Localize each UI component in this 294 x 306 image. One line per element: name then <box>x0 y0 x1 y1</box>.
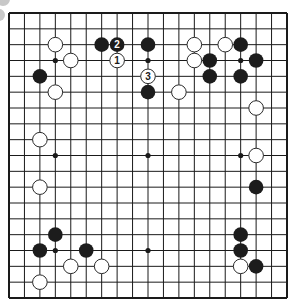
star-point <box>145 153 150 158</box>
black-stone <box>94 37 109 52</box>
star-point <box>53 58 58 63</box>
black-stone-body <box>33 69 48 84</box>
black-stone <box>202 53 217 68</box>
black-stone <box>33 243 48 258</box>
black-stone-body <box>94 37 109 52</box>
black-stone <box>249 180 264 195</box>
black-stone <box>202 69 217 84</box>
black-stone-body <box>233 69 248 84</box>
black-stone <box>79 243 94 258</box>
black-stone <box>33 69 48 84</box>
black-stone <box>233 243 248 258</box>
white-stone <box>63 259 78 274</box>
black-stone-body <box>233 243 248 258</box>
white-stone-body <box>33 275 48 290</box>
white-stone <box>94 259 109 274</box>
black-stone <box>249 259 264 274</box>
white-stone <box>33 180 48 195</box>
white-stone-body <box>33 132 48 147</box>
star-point <box>145 248 150 253</box>
black-stone-body <box>141 37 156 52</box>
black-stone: 2 <box>110 37 125 52</box>
black-stone-body <box>202 53 217 68</box>
white-stone-body <box>33 180 48 195</box>
white-stone-body <box>63 53 78 68</box>
go-board[interactable]: 213 <box>0 0 294 306</box>
white-stone-body <box>249 101 264 116</box>
white-stone <box>33 132 48 147</box>
black-stone-body <box>141 85 156 100</box>
move-number-label: 1 <box>114 55 120 66</box>
star-point <box>53 153 58 158</box>
white-stone <box>48 85 63 100</box>
white-stone <box>249 148 264 163</box>
black-stone <box>48 227 63 242</box>
white-stone <box>33 275 48 290</box>
white-stone-body <box>48 37 63 52</box>
white-stone <box>218 37 233 52</box>
black-stone-body <box>249 180 264 195</box>
black-stone <box>249 53 264 68</box>
white-stone: 1 <box>110 53 125 68</box>
black-stone-body <box>233 37 248 52</box>
white-stone-body <box>187 37 202 52</box>
black-stone-body <box>79 243 94 258</box>
black-stone <box>233 227 248 242</box>
star-point <box>145 58 150 63</box>
white-stone-body <box>172 85 187 100</box>
white-stone <box>63 53 78 68</box>
black-stone-body <box>48 227 63 242</box>
white-stone-body <box>218 37 233 52</box>
black-stone-body <box>249 53 264 68</box>
star-point <box>238 58 243 63</box>
black-stone-body <box>249 259 264 274</box>
star-point <box>53 248 58 253</box>
white-stone-body <box>94 259 109 274</box>
black-stone <box>141 85 156 100</box>
black-stone <box>233 37 248 52</box>
move-number-label: 3 <box>145 71 151 82</box>
white-stone-body <box>48 85 63 100</box>
star-point <box>238 153 243 158</box>
white-stone-body <box>233 259 248 274</box>
black-stone-body <box>202 69 217 84</box>
white-stone <box>233 259 248 274</box>
white-stone <box>187 53 202 68</box>
black-stone <box>233 69 248 84</box>
white-stone-body <box>63 259 78 274</box>
white-stone <box>48 37 63 52</box>
black-stone-body <box>33 243 48 258</box>
black-stone-body <box>233 227 248 242</box>
white-stone-body <box>187 53 202 68</box>
move-number-label: 2 <box>114 39 120 50</box>
white-stone-body <box>249 148 264 163</box>
white-stone: 3 <box>141 69 156 84</box>
black-stone <box>141 37 156 52</box>
white-stone <box>187 37 202 52</box>
white-stone <box>249 101 264 116</box>
white-stone <box>172 85 187 100</box>
